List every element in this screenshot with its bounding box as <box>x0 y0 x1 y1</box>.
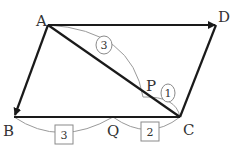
point-label-P: P <box>146 77 156 95</box>
ratio-badge-AP: 3 <box>96 36 112 54</box>
ratio-badge-PC: 1 <box>161 84 175 102</box>
point-label-C: C <box>183 121 194 139</box>
point-label-B: B <box>3 122 14 140</box>
parallelogram-diagram: 3 1 3 2 A D B C P Q <box>0 0 236 148</box>
diagonal-AC <box>48 25 180 117</box>
segment-CD <box>180 25 216 117</box>
point-label-A: A <box>35 12 47 30</box>
point-label-D: D <box>218 8 230 26</box>
point-label-Q: Q <box>107 122 119 140</box>
ratio-badge-BQ: 3 <box>55 125 73 144</box>
ratio-BQ-value: 3 <box>61 129 68 142</box>
ratio-AP-value: 3 <box>101 39 108 52</box>
ratio-PC-value: 1 <box>165 87 172 100</box>
ratio-QC-value: 2 <box>147 126 154 139</box>
ratio-badge-QC: 2 <box>141 122 159 141</box>
vector-AB <box>15 25 48 115</box>
